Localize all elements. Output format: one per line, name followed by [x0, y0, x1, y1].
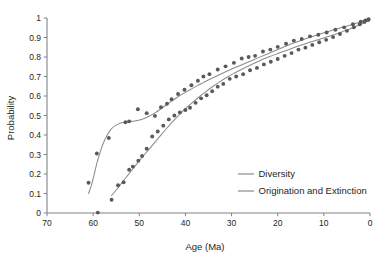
y-axis-title: Probability: [5, 96, 16, 141]
data-point-origination-extinction: [297, 48, 301, 52]
x-tick-label: 30: [227, 218, 237, 228]
data-point-origination-extinction: [352, 25, 356, 29]
data-point-diversity: [292, 39, 296, 43]
data-point-origination-extinction: [331, 35, 335, 39]
data-point-origination-extinction: [156, 130, 160, 134]
data-point-origination-extinction: [136, 159, 140, 163]
data-point-diversity: [123, 120, 127, 124]
data-point-diversity: [342, 25, 346, 29]
data-point-diversity: [127, 119, 131, 123]
data-point-origination-extinction: [303, 46, 307, 50]
data-point-origination-extinction: [338, 32, 342, 36]
data-point-diversity: [153, 114, 157, 118]
data-point-diversity: [261, 50, 265, 54]
y-tick-label: 0.2: [29, 169, 41, 179]
data-point-origination-extinction: [194, 101, 198, 105]
data-point-diversity: [268, 48, 272, 52]
data-point-diversity: [247, 55, 251, 59]
x-tick-label: 40: [181, 218, 191, 228]
y-tick-label: 0.6: [29, 91, 41, 101]
data-point-diversity: [333, 28, 337, 32]
data-point-origination-extinction: [324, 38, 328, 42]
data-point-origination-extinction: [317, 40, 321, 44]
legend-label-diversity: Diversity: [259, 168, 296, 179]
data-point-diversity: [107, 136, 111, 140]
data-point-diversity: [183, 88, 187, 92]
x-tick-label: 70: [42, 218, 52, 228]
data-point-origination-extinction: [363, 20, 367, 24]
data-point-origination-extinction: [248, 68, 252, 72]
data-point-diversity: [95, 152, 99, 156]
y-tick-label: 0.5: [29, 111, 41, 121]
data-point-origination-extinction: [122, 180, 126, 184]
data-point-diversity: [216, 68, 220, 72]
x-tick-label: 50: [135, 218, 145, 228]
data-point-origination-extinction: [262, 62, 266, 66]
data-point-origination-extinction: [127, 168, 131, 172]
y-tick-label: 1: [36, 13, 41, 23]
x-tick-label: 10: [319, 218, 329, 228]
legend-label-origination-extinction: Origination and Extinction: [259, 185, 367, 196]
data-point-diversity: [316, 33, 320, 37]
data-point-diversity: [159, 105, 163, 109]
data-point-diversity: [145, 111, 149, 115]
x-axis-title: Age (Ma): [185, 241, 224, 252]
data-point-origination-extinction: [172, 114, 176, 118]
data-point-diversity: [325, 30, 329, 34]
data-point-origination-extinction: [183, 108, 187, 112]
data-point-origination-extinction: [221, 82, 225, 86]
data-point-origination-extinction: [167, 117, 171, 121]
data-point-origination-extinction: [283, 54, 287, 58]
data-point-origination-extinction: [269, 60, 273, 64]
data-point-diversity: [176, 92, 180, 96]
data-point-diversity: [276, 45, 280, 49]
y-tick-label: 0.3: [29, 150, 41, 160]
data-point-origination-extinction: [234, 75, 238, 79]
y-tick-label: 0.4: [29, 130, 41, 140]
data-point-origination-extinction: [241, 72, 245, 76]
data-point-diversity: [136, 107, 140, 111]
x-tick-label: 60: [88, 218, 98, 228]
data-point-origination-extinction: [110, 198, 114, 202]
data-point-origination-extinction: [290, 51, 294, 55]
data-point-diversity: [232, 61, 236, 65]
data-point-origination-extinction: [310, 43, 314, 47]
data-point-diversity: [240, 57, 244, 61]
data-point-origination-extinction: [131, 165, 135, 169]
data-point-origination-extinction: [210, 89, 214, 93]
y-tick-label: 0.9: [29, 33, 41, 43]
data-point-origination-extinction: [276, 57, 280, 61]
data-point-origination-extinction: [140, 154, 144, 158]
probability-vs-age-scatter-chart: 00.10.20.30.40.50.60.70.80.91 7060504030…: [0, 0, 379, 261]
data-point-diversity: [165, 102, 169, 106]
data-point-diversity: [300, 37, 304, 41]
data-point-origination-extinction: [228, 77, 232, 81]
data-point-diversity: [207, 72, 211, 76]
data-point-diversity: [284, 42, 288, 46]
data-point-diversity: [170, 97, 174, 101]
data-point-origination-extinction: [205, 93, 209, 97]
data-point-origination-extinction: [358, 22, 362, 26]
y-tick-label: 0.1: [29, 189, 41, 199]
y-tick-label: 0: [36, 208, 41, 218]
x-tick-label: 20: [273, 218, 283, 228]
data-point-origination-extinction: [161, 124, 165, 128]
data-point-diversity: [196, 79, 200, 83]
data-point-origination-extinction: [145, 147, 149, 151]
x-tick-label: 0: [368, 218, 373, 228]
data-point-origination-extinction: [150, 135, 154, 139]
data-point-diversity: [87, 181, 91, 185]
data-point-origination-extinction: [216, 85, 220, 89]
data-point-origination-extinction: [199, 96, 203, 100]
data-point-origination-extinction: [178, 110, 182, 114]
data-point-diversity: [224, 64, 228, 68]
data-point-origination-extinction: [345, 29, 349, 33]
data-point-origination-extinction: [116, 183, 120, 187]
chart-container: 00.10.20.30.40.50.60.70.80.91 7060504030…: [0, 0, 379, 261]
data-point-origination-extinction: [96, 211, 100, 215]
data-point-origination-extinction: [366, 18, 370, 22]
data-point-diversity: [308, 34, 312, 38]
data-point-origination-extinction: [188, 106, 192, 110]
data-point-diversity: [189, 83, 193, 87]
data-point-diversity: [201, 75, 205, 79]
